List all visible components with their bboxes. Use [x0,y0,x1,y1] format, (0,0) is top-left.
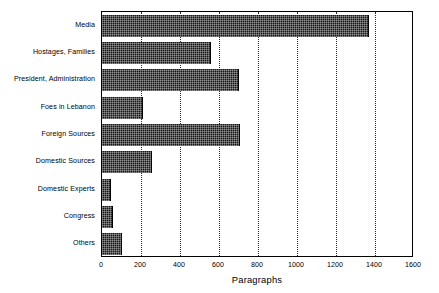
bar [102,151,152,173]
bar-row [102,97,412,119]
bar [102,15,369,37]
bar [102,69,239,91]
category-label: Media [75,21,95,29]
category-label: President, Administration [14,75,95,83]
plot-area [101,11,413,257]
category-label: Foreign Sources [41,130,95,138]
bar-row [102,233,412,255]
x-tick-label: 0 [99,261,103,269]
bar [102,206,113,228]
category-label: Others [73,239,95,247]
bar-row [102,15,412,37]
bar [102,42,211,64]
category-label: Domestic Sources [36,157,95,165]
x-tick-label: 1200 [327,261,343,269]
x-tick-label: 600 [212,261,224,269]
category-label: Congress [64,212,95,220]
bar-chart: MediaHostages, FamiliesPresident, Admini… [0,0,439,293]
x-tick-label: 800 [251,261,263,269]
x-tick-label: 1600 [405,261,421,269]
bar [102,179,111,201]
x-tick-label: 1400 [366,261,382,269]
bar-row [102,151,412,173]
bar [102,97,143,119]
bar [102,233,122,255]
x-tick-label: 1000 [288,261,304,269]
bar-row [102,206,412,228]
category-label: Hostages, Families [33,48,95,56]
bar-row [102,42,412,64]
category-label: Domestic Experts [38,185,95,193]
category-label: Foes in Lebanon [41,103,95,111]
x-axis-title: Paragraphs [101,274,413,285]
bar [102,124,240,146]
x-tick-label: 200 [134,261,146,269]
bar-row [102,69,412,91]
x-tick-label: 400 [173,261,185,269]
bar-row [102,179,412,201]
bar-row [102,124,412,146]
